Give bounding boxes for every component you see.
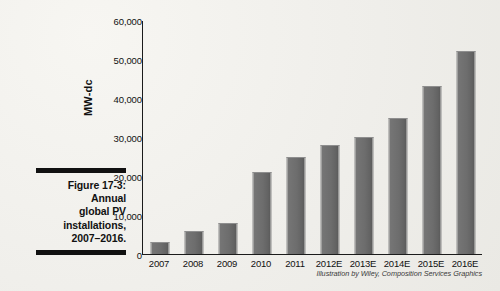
bar <box>253 172 272 254</box>
bar <box>287 157 306 255</box>
bar-slot <box>177 21 211 254</box>
bar-slot <box>415 21 449 254</box>
bar <box>389 118 408 255</box>
bar <box>355 137 374 254</box>
bar-series <box>143 21 482 254</box>
bar-slot <box>143 21 177 254</box>
x-tick-label: 2014E <box>384 258 410 269</box>
x-tick-label: 2009 <box>217 258 237 269</box>
bar-slot <box>313 21 347 254</box>
x-tick-label: 2012E <box>316 258 342 269</box>
x-tick-label: 2008 <box>183 258 203 269</box>
bar <box>185 231 204 254</box>
figure-page: Figure 17-3:Annualglobal PVinstallations… <box>0 0 500 291</box>
bar <box>219 223 238 254</box>
bar <box>151 242 170 254</box>
y-tick-label: 40,000 <box>114 94 142 105</box>
y-tick-label: 60,000 <box>114 16 142 27</box>
bar-slot <box>279 21 313 254</box>
bar <box>321 145 340 254</box>
x-tick-label: 2011 <box>285 258 305 269</box>
bar <box>457 51 476 254</box>
bar-slot <box>245 21 279 254</box>
y-tick-label: 20,000 <box>114 172 142 183</box>
bar-slot <box>347 21 381 254</box>
y-tick-label: 30,000 <box>114 133 142 144</box>
x-tick-label: 2013E <box>350 258 376 269</box>
bar <box>423 86 442 254</box>
y-tick-label: 10,000 <box>114 211 142 222</box>
y-axis-title: MW-dc <box>82 79 94 116</box>
plot-area <box>142 21 482 255</box>
x-tick-label: 2010 <box>251 258 271 269</box>
y-tick-label: 50,000 <box>114 55 142 66</box>
y-axis-tick-labels: 010,00020,00030,00040,00050,00060,000 <box>94 8 142 255</box>
bar-slot <box>449 21 483 254</box>
x-tick-label: 2015E <box>418 258 444 269</box>
x-tick-label: 2016E <box>452 258 478 269</box>
bar-chart: MW-dc 010,00020,00030,00040,00050,00060,… <box>86 8 496 283</box>
bar-slot <box>211 21 245 254</box>
bar-slot <box>381 21 415 254</box>
x-tick-label: 2007 <box>149 258 169 269</box>
illustration-credit: Illustration by Wiley, Composition Servi… <box>236 269 482 278</box>
